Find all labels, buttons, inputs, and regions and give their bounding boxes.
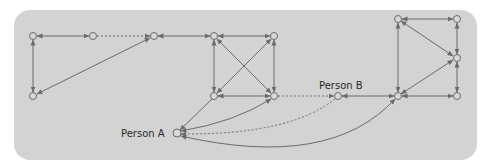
node-n13 bbox=[395, 93, 402, 100]
node-n5 bbox=[211, 33, 218, 40]
node-n6 bbox=[271, 33, 278, 40]
edge-n8-personA bbox=[181, 99, 271, 131]
network-diagram: Person B Person A bbox=[0, 0, 492, 165]
node-n1 bbox=[30, 33, 37, 40]
node-n10 bbox=[395, 16, 402, 23]
node-n3 bbox=[151, 33, 158, 40]
edge-n10-n12 bbox=[401, 21, 453, 56]
person-b-label: Person B bbox=[319, 80, 363, 91]
node-person-b bbox=[335, 93, 342, 100]
node-person-a bbox=[173, 129, 181, 137]
node-n2 bbox=[90, 33, 97, 40]
node-n12 bbox=[454, 55, 461, 62]
node-n7 bbox=[211, 93, 218, 100]
node-n4 bbox=[30, 93, 37, 100]
node-n11 bbox=[454, 16, 461, 23]
edge-n4-n3 bbox=[37, 38, 150, 94]
edge-n12-n13 bbox=[401, 60, 453, 94]
node-n8 bbox=[271, 93, 278, 100]
person-a-label: Person A bbox=[121, 128, 165, 139]
node-n14 bbox=[454, 93, 461, 100]
edge-n13-personA bbox=[181, 99, 395, 147]
edge-personB-personA bbox=[181, 99, 335, 134]
